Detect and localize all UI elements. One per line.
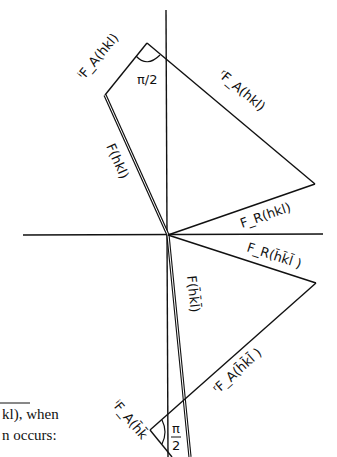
label-iFA-hkl: ⁱF_A(hkl) — [75, 30, 122, 82]
caption-line-1: kl), when — [2, 406, 59, 423]
right-angle-arc-top — [136, 55, 160, 62]
label-FR-hkl: F_R(hkl) — [238, 200, 293, 231]
label-angle-bottom-den: 2 — [172, 438, 180, 453]
right-angle-arc-bottom — [162, 420, 165, 444]
vector-rFA-hkl — [147, 43, 315, 184]
label-F-bar: F(h̄k̄l̄) — [184, 275, 203, 313]
caption-line-2: n occurs: — [2, 427, 57, 443]
label-angle-bottom-num: π — [172, 421, 180, 436]
label-angle-top: π/2 — [137, 72, 157, 87]
label-FR-bar: F_R(h̄k̄l̄ ) — [245, 240, 304, 272]
horizontal-axis — [23, 234, 323, 235]
structure-factor-diagram: ⁱF_A(hkl) π/2 ʳF_A(hkl) F(hkl) F_R(hkl) … — [0, 0, 337, 457]
label-iFA-bar: ⁱF_A(h̄k̄ — [110, 397, 151, 442]
vector-iFA-bar — [150, 430, 172, 457]
